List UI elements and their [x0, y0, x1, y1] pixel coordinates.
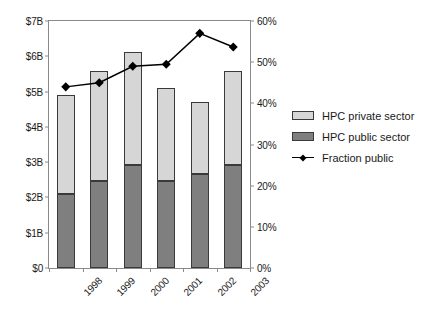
y-axis-left-tick-2: [45, 197, 49, 198]
y-axis-left-tick-5: [45, 91, 49, 92]
line-marker-1999: [95, 78, 104, 87]
legend-line-marker-icon: [292, 153, 314, 162]
line-marker-1998: [61, 82, 70, 91]
y-axis-right-tick-4: [250, 103, 254, 104]
y-axis-left-tick-4: [45, 126, 49, 127]
legend-item-hpc-private-sector: HPC private sector: [292, 105, 422, 126]
y-axis-right-tick-5: [250, 62, 254, 63]
y-axis-right-label-5: 50%: [257, 57, 276, 68]
x-axis-label-1998: 1998: [81, 275, 104, 298]
y-axis-right-tick-2: [250, 185, 254, 186]
y-axis-right-tick-6: [250, 21, 254, 22]
y-axis-right-label-4: 40%: [257, 98, 276, 109]
x-axis-label-2002: 2002: [215, 275, 238, 298]
x-axis-label-2000: 2000: [148, 275, 171, 298]
y-axis-left-label-4: $4B: [26, 121, 43, 132]
y-axis-left-label-1: $1B: [26, 227, 43, 238]
line-marker-2003: [229, 42, 238, 51]
x-axis-label-2001: 2001: [182, 275, 205, 298]
x-axis-tick-0: [49, 268, 50, 272]
legend-item-hpc-public-sector: HPC public sector: [292, 126, 422, 147]
y-axis-left-tick-1: [45, 232, 49, 233]
y-axis-left-tick-6: [45, 56, 49, 57]
legend-label-private: HPC private sector: [322, 110, 414, 122]
x-axis-label-1999: 1999: [115, 275, 138, 298]
y-axis-right-label-2: 20%: [257, 180, 276, 191]
legend-label-fraction: Fraction public: [322, 152, 394, 164]
y-axis-right-label-0: 0%: [257, 263, 271, 274]
y-axis-right-tick-3: [250, 144, 254, 145]
y-axis-left-label-7: $7B: [26, 16, 43, 27]
legend-item-fraction-public: Fraction public: [292, 147, 422, 168]
y-axis-left-tick-7: [45, 21, 49, 22]
legend-swatch-private-icon: [292, 111, 314, 120]
fraction-public-line-series: [49, 21, 250, 268]
x-axis-tick-6: [250, 268, 251, 272]
y-axis-right-label-1: 10%: [257, 221, 276, 232]
chart-legend: HPC private sector HPC public sector Fra…: [292, 105, 422, 168]
x-axis-tick-1: [83, 268, 84, 272]
y-axis-left-label-5: $5B: [26, 86, 43, 97]
legend-label-public: HPC public sector: [322, 131, 410, 143]
y-axis-left-label-0: $0: [32, 263, 43, 274]
x-axis-label-2003: 2003: [249, 275, 272, 298]
y-axis-right-label-3: 30%: [257, 139, 276, 150]
y-axis-left-label-2: $2B: [26, 192, 43, 203]
x-axis-tick-2: [116, 268, 117, 272]
y-axis-left-tick-3: [45, 162, 49, 163]
y-axis-left-label-6: $6B: [26, 51, 43, 62]
y-axis-right-tick-1: [250, 226, 254, 227]
x-axis-tick-3: [150, 268, 151, 272]
y-axis-right-label-6: 60%: [257, 16, 276, 27]
legend-swatch-public-icon: [292, 132, 314, 141]
chart-container: $0$1B$2B$3B$4B$5B$6B$7B0%10%20%30%40%50%…: [0, 0, 426, 315]
x-axis-tick-5: [217, 268, 218, 272]
x-axis-tick-4: [183, 268, 184, 272]
plot-area: $0$1B$2B$3B$4B$5B$6B$7B0%10%20%30%40%50%…: [48, 20, 251, 269]
line-marker-2000: [128, 62, 137, 71]
y-axis-left-label-3: $3B: [26, 157, 43, 168]
